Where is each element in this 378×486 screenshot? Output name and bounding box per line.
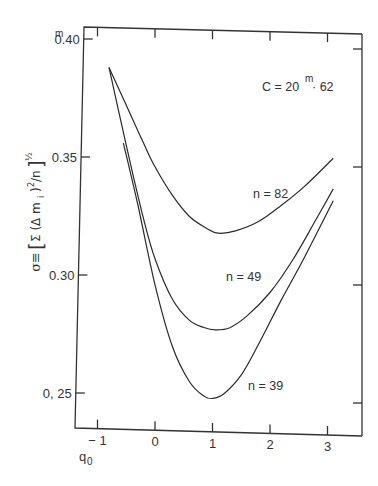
x-tick-label: 2 xyxy=(266,437,273,452)
curve-n-49 xyxy=(109,67,333,329)
annotation-suffix: · 62 xyxy=(312,80,334,94)
curve-label: n = 82 xyxy=(253,187,288,201)
y-label-sum: Σ (Δ m xyxy=(29,202,43,242)
x-tick-label: 3 xyxy=(324,439,331,454)
curve-label: n = 39 xyxy=(248,379,283,393)
y-axis-label: σ≡ [ Σ (Δ m i ) 2 /n ] ½ xyxy=(24,152,48,272)
y-label-sigma: σ≡ xyxy=(28,252,43,272)
x-tick-label: 1 xyxy=(209,436,216,451)
y-tick-label: 0, 25 xyxy=(43,386,72,401)
x-axis-label: q 0 xyxy=(79,449,93,467)
y-label-sub-i: i xyxy=(37,196,46,198)
y-tick-label: 0.30 xyxy=(49,268,74,283)
x-tick-label: − 1 xyxy=(88,433,106,448)
y-tick-label: 0.35 xyxy=(52,150,77,165)
curve-label: n = 49 xyxy=(226,270,261,284)
y-label-half: ½ xyxy=(24,152,34,161)
x-label-main: q xyxy=(79,449,86,464)
constant-annotation: C = 20 m · 62 xyxy=(262,73,334,94)
chart-canvas: − 101230, 250.300.350.40 n = 82n = 49n =… xyxy=(0,0,378,486)
y-label-bracket-open: [ xyxy=(24,242,48,250)
axis-tick-labels: − 101230, 250.300.350.40 xyxy=(43,32,331,454)
curve-labels: n = 82n = 49n = 39 xyxy=(226,187,288,393)
x-tick-label: 0 xyxy=(151,434,158,449)
curve-n-82 xyxy=(109,67,333,233)
y-label-over-n: /n xyxy=(29,170,43,182)
x-label-sub: 0 xyxy=(87,456,93,467)
y-top-unit-sup: m xyxy=(55,28,63,39)
curves xyxy=(109,67,333,398)
y-label-rest: ) xyxy=(29,187,43,192)
annotation-prefix: C = 20 xyxy=(262,80,299,94)
